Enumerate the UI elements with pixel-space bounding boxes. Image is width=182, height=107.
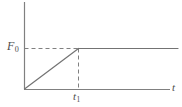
y-axis-value-symbol: F (7, 39, 14, 53)
plot-area (0, 0, 182, 107)
x-axis-title: t (172, 82, 175, 93)
y-axis-value-subscript: 0 (15, 45, 19, 54)
x-axis-tick-subscript: 1 (76, 95, 80, 104)
x-axis-tick-label: t1 (73, 91, 80, 102)
force-time-graph-figure: F0 t1 t (0, 0, 182, 107)
curve-ramp-segment (25, 49, 79, 90)
y-axis-value-label: F0 (7, 40, 18, 52)
